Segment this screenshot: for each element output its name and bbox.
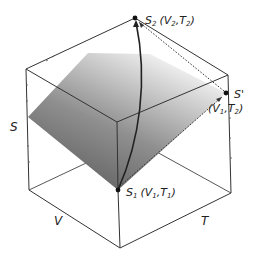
label-s2: S2(V2,T2) [145, 14, 195, 28]
edge-bottom-right [120, 193, 231, 248]
axis-label-s: S [10, 120, 18, 134]
edge-bottom-left [29, 190, 120, 248]
axis-label-v: V [54, 214, 63, 228]
point-s2 [133, 16, 138, 21]
axis-label-t: T [201, 214, 210, 228]
label-sprime-coords: (V1,T2) [208, 102, 243, 116]
arrowhead-s2-curve [133, 20, 139, 27]
edge-right-vertical [228, 75, 231, 193]
point-s1 [116, 188, 121, 193]
entropy-diagram: S2(V2,T2) S' (V1,T2) S1(V1,T1) S V T [0, 0, 257, 253]
edge-front-vertical-lower [118, 190, 120, 248]
entropy-surface [28, 53, 226, 190]
edge-left-vertical [26, 69, 29, 190]
label-s1: S1(V1,T1) [126, 186, 176, 200]
point-sprime [224, 91, 229, 96]
label-sprime: S' [234, 88, 244, 101]
